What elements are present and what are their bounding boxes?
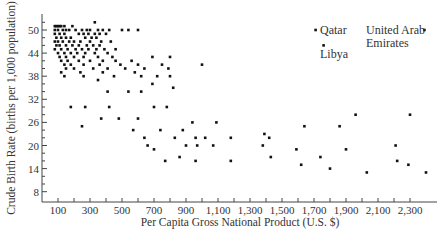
data-point [62,40,65,43]
annotation-uae-line1: United Arab [366,23,425,37]
data-point [102,71,105,74]
data-point [137,63,140,66]
data-point [73,56,76,59]
data-point [73,67,76,70]
data-point [137,117,140,120]
data-point [66,48,69,51]
data-point [204,137,207,140]
data-point [60,71,63,74]
data-point [78,33,81,36]
y-ticks: 814202632384450 [28,22,47,197]
data-point [303,125,306,128]
x-tick-label: 700 [146,204,163,216]
x-ticks: 1003005007009001,1001,3001,5001,7001,900… [50,198,423,216]
data-point [263,133,266,136]
data-point [54,29,57,32]
data-point [100,117,103,120]
data-point [86,29,89,32]
data-point [54,48,57,51]
data-point [130,60,133,63]
data-point [82,33,85,36]
data-point [68,40,71,43]
data-point [134,71,137,74]
data-point [143,137,146,140]
data-point [57,29,60,32]
data-point [396,160,399,163]
y-axis-title: Crude Birth Rate (births per 1,000 popul… [5,1,18,215]
data-point [119,63,122,66]
data-point [164,160,167,163]
data-point [84,52,87,55]
data-point [92,44,95,47]
data-point [63,25,66,28]
data-point [89,29,92,32]
data-point [94,52,97,55]
y-tick-label: 26 [28,116,40,128]
data-point [60,25,63,28]
data-point [79,40,82,43]
data-point [146,144,149,147]
data-point [124,67,127,70]
annotation-uae-line2: Emirates [366,36,409,50]
data-point [60,48,63,51]
data-point [78,44,81,47]
data-point [108,106,111,109]
data-point [97,56,100,59]
x-tick-label: 1,300 [238,204,263,216]
data-point [169,56,172,59]
data-point [58,33,61,36]
data-point [230,137,233,140]
data-point [338,125,341,128]
data-point [114,60,117,63]
data-point [127,29,130,32]
data-point [70,106,73,109]
x-tick-label: 2,300 [398,204,423,216]
data-point [270,156,273,159]
data-point [106,90,109,93]
data-point [295,148,298,151]
chart-canvas: 814202632384450 1003005007009001,1001,30… [0,0,437,234]
data-point [345,148,348,151]
x-tick-label: 300 [82,204,99,216]
x-tick-label: 1,900 [334,204,359,216]
y-tick-label: 50 [28,24,40,36]
data-point [182,129,185,132]
data-point [268,137,271,140]
data-point [86,44,89,47]
data-point [60,36,63,39]
data-point [90,36,93,39]
data-point [82,56,85,59]
data-point [394,144,397,147]
data-point [87,33,90,36]
data-point [65,56,68,59]
data-point [102,60,105,63]
data-point [300,163,303,166]
data-point [114,48,117,51]
y-tick-label: 38 [28,70,40,82]
x-tick-label: 1,700 [302,204,327,216]
data-point [103,48,106,51]
x-axis-title: Per Capita Gross National Product (U.S. … [141,216,340,229]
data-point [65,36,68,39]
data-point [98,63,101,66]
data-point [81,125,84,128]
data-point [178,156,181,159]
data-point [81,48,84,51]
data-point [167,67,170,70]
data-point [185,144,188,147]
x-tick-label: 2,100 [366,204,391,216]
y-tick-label: 8 [34,186,40,198]
data-point [95,36,98,39]
data-point [113,75,116,78]
data-point [54,33,57,36]
data-point [105,33,108,36]
data-point [98,33,101,36]
data-point [65,29,68,32]
data-point [94,21,97,24]
data-point [111,56,114,59]
data-point [201,63,204,66]
data-point [140,75,143,78]
data-point [366,171,369,174]
data-point [78,60,81,63]
data-point [161,63,164,66]
